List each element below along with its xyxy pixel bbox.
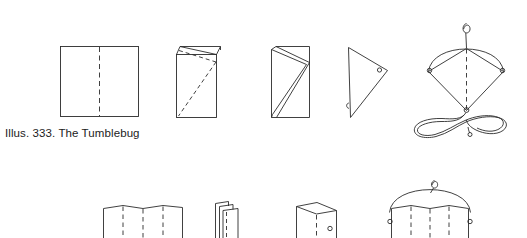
illustration-canvas (0, 0, 527, 238)
figure-caption: Illus. 333. The Tumblebug (5, 126, 140, 140)
